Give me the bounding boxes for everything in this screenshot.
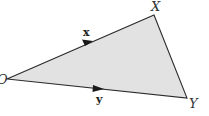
vertex-label-o: O (0, 72, 8, 87)
triangle-oxy (7, 15, 187, 98)
vertex-label-x: X (150, 0, 161, 14)
vector-label-x: x (83, 26, 90, 39)
vertex-label-y: Y (189, 96, 199, 111)
vector-label-y: y (95, 93, 103, 106)
vector-triangle-diagram: O X Y x y (0, 0, 209, 116)
